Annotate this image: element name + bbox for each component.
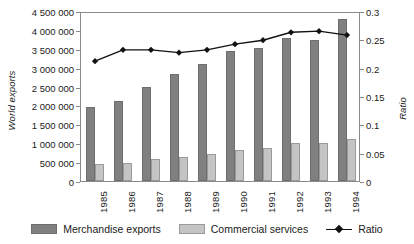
ratio-line-path — [95, 31, 347, 61]
y-axis-left: 0500 0001 000 0001 500 0002 000 0002 500… — [0, 0, 80, 244]
y-axis-right-tick-label: 0.05 — [366, 148, 385, 159]
legend-item-merchandise: Merchandise exports — [31, 223, 160, 235]
y-axis-left-tick-label: 0 — [69, 177, 74, 188]
y-axis-right-tick-label: 0.2 — [366, 63, 379, 74]
y-axis-left-tick-label: 1 500 000 — [32, 120, 74, 131]
legend-item-ratio: Ratio — [326, 223, 383, 235]
y-axis-left-tick-label: 1 000 000 — [32, 139, 74, 150]
y-axis-left-tick-label: 4 500 000 — [32, 7, 74, 18]
y-axis-right: 00.050.10.150.20.250.3 — [360, 0, 414, 244]
plot-area — [80, 12, 360, 182]
legend-label-ratio: Ratio — [358, 223, 383, 235]
legend-swatch-commercial-services — [179, 224, 205, 234]
ratio-data-point-marker — [232, 41, 238, 47]
legend-label-commercial-services: Commercial services — [211, 223, 308, 235]
y-axis-right-tick-label: 0 — [366, 177, 371, 188]
y-axis-left-tick — [76, 182, 80, 183]
chart-legend: Merchandise exports Commercial services … — [0, 214, 414, 244]
x-axis-tick-label: 1985 — [98, 191, 109, 213]
ratio-data-point-marker — [148, 47, 154, 53]
legend-line-ratio-icon — [326, 224, 352, 234]
y-axis-right-tick-label: 0.25 — [366, 35, 385, 46]
ratio-data-point-marker — [120, 47, 126, 53]
chart-container: World exports Ratio 0500 0001 000 0001 5… — [0, 0, 414, 244]
x-axis-tick-label: 1988 — [182, 191, 193, 213]
y-axis-left-tick-label: 4 000 000 — [32, 25, 74, 36]
x-axis-tick-label: 1991 — [266, 191, 277, 213]
y-axis-right-tick-label: 0.1 — [366, 120, 379, 131]
y-axis-right-tick-label: 0.3 — [366, 7, 379, 18]
y-axis-left-tick-label: 3 500 000 — [32, 44, 74, 55]
legend-label-merchandise: Merchandise exports — [63, 223, 160, 235]
ratio-data-point-marker — [92, 58, 98, 64]
x-axis-tick-label: 1987 — [154, 191, 165, 213]
y-axis-right-tick-label: 0.15 — [366, 92, 385, 103]
y-axis-left-tick-label: 500 000 — [40, 158, 74, 169]
ratio-data-point-marker — [260, 37, 266, 43]
x-axis-tick-label: 1992 — [294, 191, 305, 213]
ratio-data-point-marker — [288, 29, 294, 35]
ratio-line-layer — [81, 13, 359, 181]
x-axis-tick-label: 1993 — [322, 191, 333, 213]
y-axis-left-tick-label: 2 500 000 — [32, 82, 74, 93]
x-axis-tick-label: 1990 — [238, 191, 249, 213]
legend-swatch-merchandise — [31, 224, 57, 234]
y-axis-left-tick-label: 2 000 000 — [32, 101, 74, 112]
legend-item-commercial-services: Commercial services — [179, 223, 308, 235]
x-axis-tick-label: 1989 — [210, 191, 221, 213]
ratio-data-point-marker — [204, 47, 210, 53]
ratio-data-point-marker — [344, 32, 350, 38]
ratio-data-point-marker — [316, 28, 322, 34]
x-axis-tick-label: 1986 — [126, 191, 137, 213]
ratio-data-point-marker — [176, 50, 182, 56]
ratio-line-chart — [81, 13, 361, 183]
y-axis-left-tick-label: 3 000 000 — [32, 63, 74, 74]
x-axis-tick-label: 1994 — [350, 191, 361, 213]
